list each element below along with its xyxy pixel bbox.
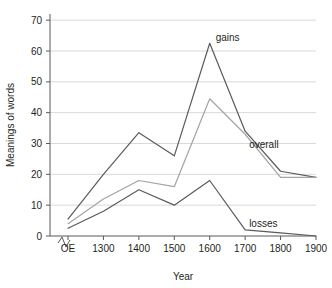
series-label-gains: gains (216, 32, 240, 43)
x-tick-label-1800: 1800 (269, 243, 292, 254)
y-tick-label-40: 40 (31, 107, 43, 118)
y-tick-label-20: 20 (31, 169, 43, 180)
x-tick-label-OE: OE (61, 243, 76, 254)
x-axis-ticks (68, 236, 316, 240)
x-axis-title: Year (173, 271, 194, 282)
y-axis-title: Meanings of words (5, 83, 16, 167)
series-label-overall: overall (249, 139, 278, 150)
y-tick-label-0: 0 (36, 231, 42, 242)
line-chart: 010203040506070 OE1300140015001600170018… (0, 0, 332, 288)
x-tick-label-1500: 1500 (163, 243, 186, 254)
x-tick-label-1600: 1600 (199, 243, 222, 254)
y-axis-ticks (46, 20, 50, 236)
x-tick-label-1700: 1700 (234, 243, 257, 254)
y-tick-label-60: 60 (31, 46, 43, 57)
x-axis-tick-labels: OE1300140015001600170018001900 (61, 243, 328, 254)
chart-canvas: 010203040506070 OE1300140015001600170018… (0, 0, 332, 288)
x-tick-label-1900: 1900 (305, 243, 328, 254)
x-tick-label-1300: 1300 (92, 243, 115, 254)
series-line-losses (68, 181, 316, 237)
series-annotations: gainsoveralllosses (216, 32, 279, 229)
series-layer (68, 43, 316, 236)
series-label-losses: losses (249, 218, 277, 229)
gridlines (50, 20, 316, 205)
y-tick-label-70: 70 (31, 15, 43, 26)
y-tick-label-50: 50 (31, 76, 43, 87)
y-tick-label-10: 10 (31, 200, 43, 211)
x-tick-label-1400: 1400 (128, 243, 151, 254)
y-axis-tick-labels: 010203040506070 (31, 15, 43, 242)
y-tick-label-30: 30 (31, 138, 43, 149)
